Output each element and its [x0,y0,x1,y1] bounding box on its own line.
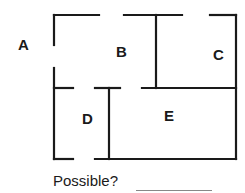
label-c: C [213,46,224,63]
question-label: Possible? [53,172,118,189]
label-b: B [116,43,127,60]
floor-plan: A B C D E [0,0,245,193]
label-d: D [82,110,93,127]
answer-blank-line[interactable] [136,190,212,191]
label-e: E [164,107,174,124]
label-a: A [18,36,29,53]
